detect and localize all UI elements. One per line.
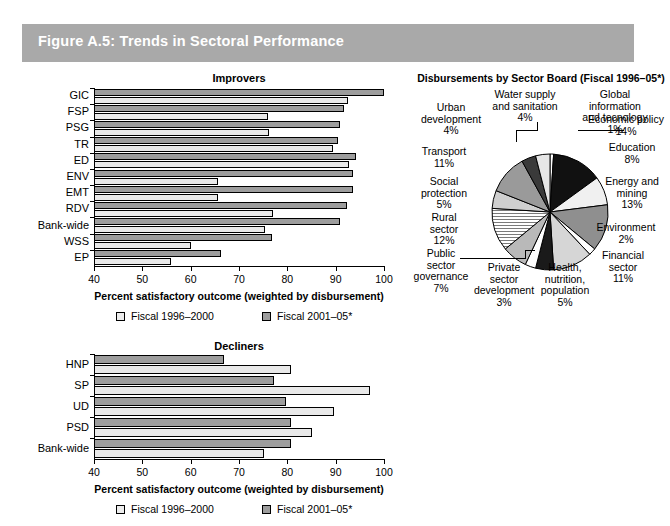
decliners-legend-1996-2000: Fiscal 1996–2000 bbox=[116, 503, 214, 515]
decliners-x-tick bbox=[94, 460, 95, 464]
improvers-category-label: Bank-wide bbox=[22, 220, 89, 231]
improvers-bar-1996-2000 bbox=[94, 129, 269, 136]
improvers-chart: ImproversGICFSPPSGTREDENVEMTRDVBank-wide… bbox=[22, 72, 424, 340]
disbursements-pie-chart: Disbursements by Sector Board (Fiscal 19… bbox=[412, 72, 670, 302]
decliners-x-tick bbox=[142, 460, 143, 464]
improvers-bar-1996-2000 bbox=[94, 145, 333, 152]
decliners-legend-2001-05-swatch bbox=[262, 505, 271, 514]
decliners-bar-1996-2000 bbox=[94, 365, 291, 374]
improvers-x-tick bbox=[287, 267, 288, 271]
decliners-x-tick-label: 40 bbox=[79, 466, 109, 478]
improvers-x-tick bbox=[94, 267, 95, 271]
improvers-bar-1996-2000 bbox=[94, 113, 268, 120]
decliners-x-axis-title: Percent satisfactory outcome (weighted b… bbox=[34, 483, 444, 495]
improvers-x-tick-label: 90 bbox=[321, 273, 351, 285]
improvers-category-label: ENV bbox=[22, 171, 89, 182]
improvers-title: Improvers bbox=[94, 72, 384, 84]
improvers-x-tick bbox=[384, 267, 385, 271]
decliners-y-axis bbox=[94, 354, 95, 459]
pie-chart-title: Disbursements by Sector Board (Fiscal 19… bbox=[412, 72, 670, 84]
page-title: Figure A.5: Trends in Sectoral Performan… bbox=[38, 33, 344, 49]
pie-label-water-supply: Water supplyand sanitation4% bbox=[482, 89, 568, 124]
decliners-category-label: SP bbox=[22, 380, 89, 391]
pie-leader-line bbox=[537, 122, 538, 131]
decliners-category-label: Bank-wide bbox=[22, 443, 89, 454]
decliners-bar-2001-05 bbox=[94, 418, 291, 427]
improvers-legend-2001-05-label: Fiscal 2001–05* bbox=[277, 310, 352, 322]
improvers-bar-2001-05 bbox=[94, 218, 340, 225]
decliners-legend-2001-05-label: Fiscal 2001–05* bbox=[277, 503, 352, 515]
decliners-category-label: HNP bbox=[22, 359, 89, 370]
decliners-x-tick-label: 80 bbox=[272, 466, 302, 478]
decliners-chart: DeclinersHNPSPUDPSDBank-wide405060708090… bbox=[22, 340, 424, 526]
improvers-category-label: EP bbox=[22, 252, 89, 263]
decliners-bar-1996-2000 bbox=[94, 428, 312, 437]
improvers-legend-1996-2000: Fiscal 1996–2000 bbox=[116, 310, 214, 322]
decliners-bar-2001-05 bbox=[94, 376, 274, 385]
pie-leader-line bbox=[516, 130, 538, 131]
improvers-bar-2001-05 bbox=[94, 105, 344, 112]
improvers-category-label: TR bbox=[22, 139, 89, 150]
improvers-category-label: EMT bbox=[22, 187, 89, 198]
decliners-legend-1996-2000-swatch bbox=[116, 505, 125, 514]
decliners-x-tick-label: 60 bbox=[176, 466, 206, 478]
decliners-x-tick bbox=[239, 460, 240, 464]
improvers-bar-1996-2000 bbox=[94, 242, 191, 249]
improvers-bar-2001-05 bbox=[94, 234, 272, 241]
pie-label-energy-and-mining: Energy andmining13% bbox=[596, 176, 668, 211]
improvers-x-tick bbox=[142, 267, 143, 271]
improvers-x-tick-label: 80 bbox=[272, 273, 302, 285]
decliners-x-tick bbox=[336, 460, 337, 464]
pie-label-private-sector-development: Privatesectordevelopment3% bbox=[470, 262, 538, 308]
pie-label-transport: Transport11% bbox=[408, 146, 480, 169]
improvers-category-label: GIC bbox=[22, 90, 89, 101]
decliners-bar-1996-2000 bbox=[94, 449, 264, 458]
improvers-x-tick-label: 60 bbox=[176, 273, 206, 285]
decliners-x-tick bbox=[384, 460, 385, 464]
improvers-category-label: RDV bbox=[22, 203, 89, 214]
pie-label-health-nutrition-population: Health,nutrition,population5% bbox=[532, 262, 598, 308]
pie-label-economic-policy: Economic policy14% bbox=[582, 114, 670, 137]
improvers-bar-1996-2000 bbox=[94, 194, 218, 201]
pie-leader-line bbox=[516, 130, 517, 142]
pie-leader-line bbox=[525, 250, 526, 259]
decliners-category-label: UD bbox=[22, 401, 89, 412]
improvers-x-axis-title: Percent satisfactory outcome (weighted b… bbox=[34, 290, 444, 302]
decliners-category-label: PSD bbox=[22, 422, 89, 433]
decliners-bar-1996-2000 bbox=[94, 407, 334, 416]
improvers-bar-2001-05 bbox=[94, 186, 353, 193]
decliners-legend-2001-05: Fiscal 2001–05* bbox=[262, 503, 352, 515]
pie-label-social-protection: Socialprotection5% bbox=[408, 176, 480, 211]
improvers-legend-1996-2000-swatch bbox=[116, 312, 125, 321]
improvers-x-tick-label: 40 bbox=[79, 273, 109, 285]
improvers-y-axis bbox=[94, 88, 95, 266]
decliners-x-tick-label: 70 bbox=[224, 466, 254, 478]
improvers-legend-2001-05-swatch bbox=[262, 312, 271, 321]
improvers-bar-2001-05 bbox=[94, 170, 353, 177]
improvers-category-label: FSP bbox=[22, 106, 89, 117]
pie-label-rural-sector: Ruralsector12% bbox=[408, 212, 480, 247]
decliners-bar-2001-05 bbox=[94, 439, 291, 448]
pie-label-environment: Environment2% bbox=[584, 222, 668, 245]
decliners-x-tick-label: 50 bbox=[127, 466, 157, 478]
improvers-legend-1996-2000-label: Fiscal 1996–2000 bbox=[131, 310, 214, 322]
improvers-x-tick-label: 50 bbox=[127, 273, 157, 285]
improvers-bar-2001-05 bbox=[94, 137, 338, 144]
decliners-bar-1996-2000 bbox=[94, 386, 370, 395]
decliners-bar-2001-05 bbox=[94, 397, 286, 406]
improvers-x-tick-label: 100 bbox=[369, 273, 399, 285]
decliners-x-tick-label: 90 bbox=[321, 466, 351, 478]
pie-leader-line bbox=[578, 130, 624, 131]
pie-label-financial-sector: Financialsector11% bbox=[590, 250, 656, 285]
decliners-x-tick bbox=[191, 460, 192, 464]
pie-label-education: Education8% bbox=[596, 142, 668, 165]
improvers-category-label: ED bbox=[22, 155, 89, 166]
improvers-bar-1996-2000 bbox=[94, 258, 171, 265]
improvers-bar-1996-2000 bbox=[94, 178, 218, 185]
decliners-legend-1996-2000-label: Fiscal 1996–2000 bbox=[131, 503, 214, 515]
pie-label-public-sector-governance: Publicsectorgovernance7% bbox=[402, 248, 480, 294]
decliners-title: Decliners bbox=[94, 340, 384, 352]
pie-leader-line bbox=[460, 258, 526, 259]
improvers-bar-2001-05 bbox=[94, 121, 340, 128]
improvers-x-tick bbox=[336, 267, 337, 271]
